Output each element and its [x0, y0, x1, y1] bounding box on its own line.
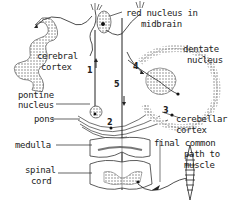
label-cerebral: cerebral: [37, 51, 78, 61]
label-red-nucleus: red nucleus in: [126, 8, 198, 18]
pathway-number-4: 4: [133, 62, 139, 71]
label-dentate: dentate: [183, 44, 219, 54]
label-cerebellar: cerebellar: [176, 114, 227, 124]
label-medulla: medulla: [15, 140, 51, 150]
pathway-number-1: 1: [87, 66, 93, 75]
label-pontine: pontine: [18, 90, 54, 100]
label-dentate-nucleus: nucleus: [187, 55, 223, 65]
label-spinal-cord: cord: [31, 176, 51, 186]
spinal-cord-section: [90, 160, 152, 189]
label-path-to: path to: [184, 149, 220, 159]
motor-pathway-diagram: red nucleus in midbrain cerebral cortex …: [0, 0, 246, 208]
label-final-common: final common: [154, 138, 215, 148]
medulla-section: [90, 137, 150, 157]
pathway-number-3: 3: [163, 106, 169, 115]
label-cerebellar-cortex: cortex: [176, 125, 207, 135]
label-midbrain: midbrain: [141, 19, 182, 29]
label-spinal: spinal: [25, 165, 56, 175]
label-cerebral-cortex: cortex: [41, 62, 72, 72]
pathway-number-5: 5: [114, 80, 120, 89]
label-pons: pons: [34, 114, 54, 124]
label-muscle: muscle: [184, 160, 215, 170]
pathway-number-2: 2: [107, 118, 113, 127]
label-pontine-nucleus: nucleus: [18, 100, 54, 110]
